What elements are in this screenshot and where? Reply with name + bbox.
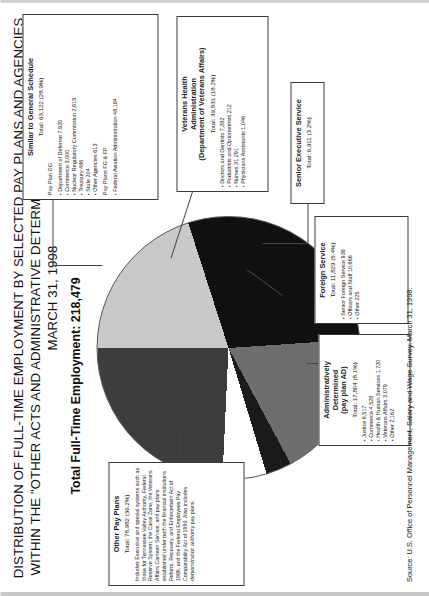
list-item: Federal Aviation Administration 48,184: [111, 19, 118, 195]
list-item: Other 225: [353, 221, 360, 319]
pay-plan-gg-label: Pay Plan GG: [46, 19, 53, 195]
callout-title: Foreign Service: [318, 221, 327, 319]
leader-line-opp: [178, 426, 179, 462]
callout-title-line1: Administratively: [322, 339, 331, 441]
list-item: Justice 6,517: [360, 339, 367, 441]
callout-total: Total: 63,122 (28.9%): [36, 19, 43, 195]
list-item: Health & Human Services 1,720: [374, 339, 381, 441]
callout-total: Total: 78,982 (36.2%): [122, 467, 129, 581]
list-item: Nurses 31,291: [232, 21, 239, 187]
callout-note: Includes Executive and special systems s…: [133, 467, 195, 581]
scan-edge-right: [0, 0, 429, 3]
list-item: Podiatrists and Optometrists 212: [225, 21, 232, 187]
list-item: Officers and Staff 10,666: [346, 221, 353, 319]
callout-veterans-health-administration: Veterans Health Administration (Departme…: [176, 16, 268, 192]
list-item: Commerce 4,528: [367, 339, 374, 441]
leader-line-sgs-h: [52, 200, 53, 266]
callout-senior-executive-service: Senior Executive Service Total: 6,911 (3…: [290, 82, 324, 204]
list-item: Treasury 486: [77, 19, 84, 195]
list-item: Other Agencies 613: [91, 19, 98, 195]
admin-determined-list: Justice 6,517 Commerce 4,528 Health & Hu…: [360, 339, 395, 441]
leader-line-ses-h: [307, 204, 308, 244]
list-item: State 204: [84, 19, 91, 195]
list-item: Other 2,162: [388, 339, 395, 441]
list-item: Veterans Affairs 3,079: [381, 339, 388, 441]
pay-plan-fg-fp-label: Pay Plans FG & FP: [101, 19, 108, 195]
callout-total: Total: 6,911 (3.2%): [304, 87, 311, 199]
vha-list: Doctors and Dentists 7,282 Podiatrists a…: [218, 21, 246, 187]
list-item: Senior Foreign Service 938: [339, 221, 346, 319]
callout-title: Other Pay Plans: [112, 467, 121, 581]
pay-plan-fg-fp-list: Federal Aviation Administration 48,184: [111, 19, 118, 195]
callout-total: Total: 39,831 (18.2%): [208, 21, 215, 187]
source-note: Source: U.S. Office of Personnel Managem…: [404, 288, 413, 582]
callout-title-line1: Veterans Health: [180, 21, 189, 187]
list-item: Nuclear Regulatory Commission 2,615: [70, 19, 77, 195]
list-item: Doctors and Dentists 7,282: [218, 21, 225, 187]
callout-title: Similar to General Schedule: [26, 19, 35, 195]
leader-line-sgs: [52, 265, 102, 266]
callout-title-line3: (pay plan AD): [339, 339, 348, 441]
leader-line-ses: [262, 243, 308, 244]
callout-total: Total: 11,829 (5.4%): [328, 221, 335, 319]
callout-foreign-service: Foreign Service Total: 11,829 (5.4%) Sen…: [314, 216, 408, 324]
callout-total: Total: 17,804 (8.1%): [350, 339, 357, 441]
callout-other-pay-plans: Other Pay Plans Total: 78,982 (36.2%) In…: [108, 462, 244, 586]
scan-edge-left: [0, 592, 429, 596]
list-item: Department of Defense 7,920: [56, 19, 63, 195]
callout-similar-to-general-schedule: Similar to General Schedule Total: 63,12…: [22, 14, 158, 200]
callout-title-line3: (Department of Veterans Affairs): [197, 21, 206, 187]
list-item: Physicians Assistants 1,046: [239, 21, 246, 187]
chart-page: DISTRIBUTION OF FULL-TIME EMPLOYMENT BY …: [0, 0, 429, 596]
leader-line-ad: [306, 363, 318, 364]
pay-plan-gg-list: Department of Defense 7,920 Commerce 3,0…: [56, 19, 98, 195]
total-employment-label: Total Full-Time Employment: 218,479: [68, 236, 82, 536]
foreign-service-list: Senior Foreign Service 938 Officers and …: [339, 221, 360, 319]
list-item: Commerce 3,000: [63, 19, 70, 195]
callout-administratively-determined: Administratively Determined (pay plan AD…: [318, 334, 410, 446]
callout-title: Senior Executive Service: [294, 87, 303, 199]
